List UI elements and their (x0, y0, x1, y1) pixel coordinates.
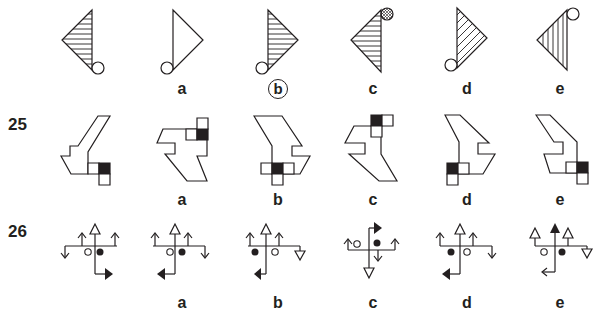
option-a-label: a (172, 294, 192, 312)
option-e-label: e (550, 191, 570, 209)
option-d-polygon[interactable] (443, 114, 503, 186)
option-d-arrows[interactable] (435, 222, 500, 282)
option-e-arrows[interactable] (530, 222, 595, 282)
option-d-label: d (457, 294, 477, 312)
option-d-label: d (457, 191, 477, 209)
option-c-triangle[interactable] (348, 6, 398, 72)
option-b-triangle[interactable] (255, 8, 305, 74)
question-figure-arrows (55, 222, 120, 282)
option-b-label: b (268, 191, 288, 209)
option-c-polygon[interactable] (343, 114, 403, 186)
option-d-label: d (457, 80, 477, 98)
question-figure-polygon (60, 114, 120, 186)
option-c-label: c (363, 294, 383, 312)
question-number-26: 26 (8, 222, 27, 242)
option-b-label-selected: b (268, 79, 288, 99)
option-d-triangle[interactable] (440, 8, 490, 74)
option-a-label: a (172, 191, 192, 209)
option-c-label: c (363, 80, 383, 98)
option-a-arrows[interactable] (150, 222, 215, 282)
option-e-label: e (550, 80, 570, 98)
option-a-triangle[interactable] (160, 8, 210, 74)
option-c-label: c (363, 191, 383, 209)
option-b-polygon[interactable] (252, 114, 312, 186)
option-e-triangle[interactable] (535, 6, 585, 72)
option-b-arrows[interactable] (246, 222, 311, 282)
question-figure-triangle (60, 8, 110, 74)
question-number-25: 25 (8, 115, 27, 135)
option-b-label: b (268, 294, 288, 312)
option-e-label: e (550, 294, 570, 312)
option-c-arrows[interactable] (340, 220, 405, 282)
option-a-polygon[interactable] (157, 114, 217, 186)
option-a-label: a (172, 80, 192, 98)
option-e-polygon[interactable] (534, 114, 594, 186)
